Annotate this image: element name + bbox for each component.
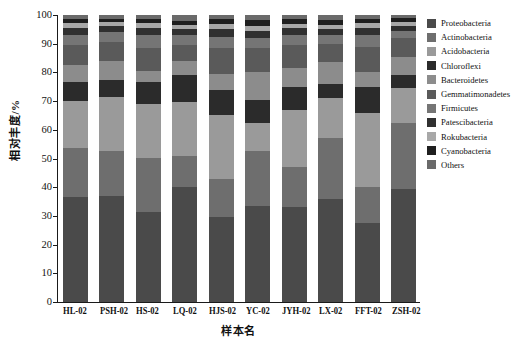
legend-swatch-icon (427, 75, 436, 84)
legend-item-label: Firmicutes (441, 103, 478, 113)
bar-segment (282, 110, 307, 167)
x-axis-tick-label: ZSH-02 (392, 306, 415, 322)
legend-item: Bacteroidetes (427, 73, 531, 87)
legend-swatch-icon (427, 146, 436, 155)
x-axis-tick-label: FFT-02 (355, 306, 378, 322)
legend-item-label: Actinobacteria (441, 32, 492, 42)
bar-segment (318, 199, 343, 302)
bar-segment (99, 196, 124, 302)
legend-swatch-icon (427, 19, 436, 28)
bar-segment (99, 80, 124, 97)
legend-item-label: Acidobacteria (441, 46, 489, 56)
legend-item: Rokubacteria (427, 130, 531, 144)
bar-segment (136, 71, 161, 82)
bar-segment (245, 206, 270, 302)
x-axis-tick-label: LX-02 (319, 306, 342, 322)
x-axis-tick-label: JYH-02 (282, 306, 305, 322)
x-axis-tick-label: LQ-02 (173, 306, 196, 322)
y-axis-tick-label: 90 (20, 38, 52, 49)
bar-segment (209, 29, 234, 36)
bar-segment (63, 28, 88, 35)
bar-segment (209, 179, 234, 218)
bar-segment (172, 75, 197, 102)
y-axis-tick-label: 10 (20, 268, 52, 279)
legend-swatch-icon (427, 160, 436, 169)
bar-segment (172, 45, 197, 61)
bar-segment (391, 75, 416, 88)
bar-segment (355, 28, 380, 35)
stacked-bar (245, 15, 270, 302)
bar-segment (355, 72, 380, 86)
legend-item: Gemmatimonadetes (427, 87, 531, 101)
bar-segment (282, 207, 307, 302)
x-axis-tick-label: HJS-02 (209, 306, 232, 322)
legend-item: Chloroflexi (427, 59, 531, 73)
y-axis-tick-mark (53, 159, 58, 160)
bar-segment (355, 87, 380, 113)
y-axis-tick-label: 40 (20, 182, 52, 193)
x-axis-tick-labels: HL-02PSH-02HS-02LQ-02HJS-02YC-02JYH-02LX… (57, 306, 420, 322)
bar-segment (209, 48, 234, 74)
bar-segment (63, 148, 88, 197)
bar-segment (318, 44, 343, 63)
bar-segment (245, 38, 270, 48)
y-axis-tick-mark (53, 101, 58, 102)
chart-figure: 相对丰度/% 0102030405060708090100 HL-02PSH-0… (0, 0, 532, 344)
bar-segment (355, 35, 380, 46)
bar-segment (209, 115, 234, 178)
bar-segment (209, 90, 234, 116)
bar-segment (245, 151, 270, 206)
bar-segment (136, 212, 161, 302)
y-axis-tick-label: 60 (20, 125, 52, 136)
legend-item-label: Proteobacteria (441, 18, 491, 28)
bar-segment (318, 84, 343, 98)
bar-segment (99, 32, 124, 42)
bar-segment (172, 156, 197, 188)
legend-swatch-icon (427, 104, 436, 113)
y-axis-tick-mark (53, 187, 58, 188)
bar-segment (282, 87, 307, 110)
legend-swatch-icon (427, 118, 436, 127)
y-axis-tick-label: 20 (20, 239, 52, 250)
bar-segment (355, 113, 380, 188)
legend-swatch-icon (427, 61, 436, 70)
bar-segment (63, 35, 88, 45)
stacked-bar (63, 15, 88, 302)
bar-segment (355, 223, 380, 302)
legend-item: Cyanobacteria (427, 144, 531, 158)
bar-segment (63, 101, 88, 148)
bar-segment (318, 138, 343, 198)
legend-item: Actinobacteria (427, 30, 531, 44)
legend-item: Acidobacteria (427, 44, 531, 58)
bar-segment (172, 35, 197, 45)
bar-segment (245, 31, 270, 38)
y-axis-tick-label: 70 (20, 96, 52, 107)
bar-segment (99, 97, 124, 152)
stacked-bar (318, 15, 343, 302)
legend-swatch-icon (427, 33, 436, 42)
bar-segment (282, 68, 307, 87)
bar-segment (391, 123, 416, 189)
bar-segment (63, 197, 88, 302)
legend-item-label: Patescibacteria (441, 117, 493, 127)
stacked-bar (282, 15, 307, 302)
bar-segment (63, 65, 88, 82)
legend-swatch-icon (427, 47, 436, 56)
bar-segment (99, 61, 124, 80)
y-axis-tick-mark (53, 302, 58, 303)
bar-segment (172, 187, 197, 302)
bar-segment (136, 48, 161, 71)
bar-segment (209, 217, 234, 302)
y-axis-tick-mark (53, 130, 58, 131)
bar-segment (245, 123, 270, 152)
bar-segment (282, 45, 307, 68)
bar-segment (391, 189, 416, 302)
legend-item: Others (427, 158, 531, 172)
bar-segment (391, 31, 416, 38)
stacked-bar (209, 15, 234, 302)
bar-segment (209, 74, 234, 90)
legend-item: Patescibacteria (427, 115, 531, 129)
bar-segment (391, 57, 416, 76)
stacked-bar (172, 15, 197, 302)
y-axis-tick-label: 100 (20, 10, 52, 21)
